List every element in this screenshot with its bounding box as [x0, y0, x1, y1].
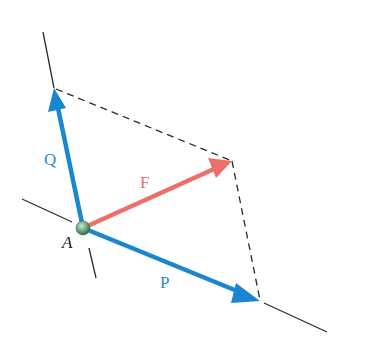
point-a-label: A [61, 233, 73, 252]
lines-of-action [22, 32, 327, 332]
vector-p [83, 228, 260, 303]
vector-q-arrowhead-icon [48, 88, 66, 112]
vector-f [83, 158, 232, 228]
vector-q-label: Q [44, 150, 56, 169]
point-a-ball [76, 221, 90, 235]
p-line-right [264, 303, 327, 332]
q-line-upper [43, 32, 54, 88]
vector-p-arrowhead-icon [231, 283, 260, 303]
p-line-left [22, 199, 72, 222]
dashed-q-to-f [56, 89, 232, 161]
vector-f-label: F [140, 173, 149, 192]
vector-q-shaft [58, 108, 83, 228]
vector-parallelogram-diagram: A Q P F [0, 0, 368, 348]
q-line-lower [89, 248, 96, 278]
vector-p-label: P [160, 273, 169, 292]
dashed-f-to-p [232, 161, 260, 300]
